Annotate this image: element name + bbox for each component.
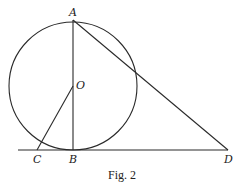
label-b: B [68,153,77,166]
label-o: O [76,79,85,92]
segment-ad [73,20,228,150]
label-c: C [33,153,42,166]
geometry-figure: A O B C D Fig. 2 [0,0,244,186]
figure-caption: Fig. 2 [108,168,136,182]
label-a: A [68,6,77,19]
label-d: D [223,153,233,166]
segment-oc [37,86,73,150]
